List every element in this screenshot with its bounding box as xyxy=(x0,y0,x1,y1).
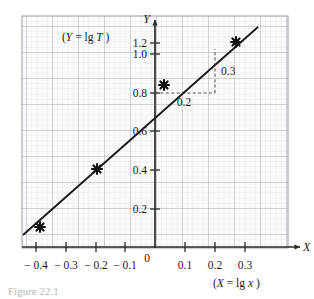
x-tick-label: 0.3 xyxy=(238,259,253,271)
x-tick-label: 0.2 xyxy=(208,259,223,271)
y-tick-label: 1.0 xyxy=(133,48,148,60)
y-tick-label: 0.4 xyxy=(133,164,148,176)
figure-root: 0.2 0.4 0.6 0.8 1.0 1.2 − 0.4 − 0.3 − 0.… xyxy=(0,0,314,299)
figure-caption-strip: Figure 22.1 xyxy=(0,283,314,299)
slope-run-label: 0.2 xyxy=(177,96,192,108)
y-tick-label: 0.2 xyxy=(133,203,148,215)
y-tick-label: 0.8 xyxy=(133,87,148,99)
x-tick-label: − 0.2 xyxy=(84,259,108,271)
figure-caption: Figure 22.1 xyxy=(8,285,59,297)
chart-canvas: 0.2 0.4 0.6 0.8 1.0 1.2 − 0.4 − 0.3 − 0.… xyxy=(0,0,314,299)
origin-label: 0 xyxy=(144,252,150,264)
y-def-close: ) xyxy=(103,31,110,44)
x-tick-label: − 0.4 xyxy=(24,259,48,271)
data-point xyxy=(92,164,102,174)
x-tick-label: − 0.1 xyxy=(113,259,137,271)
x-tick-label: − 0.3 xyxy=(54,259,78,271)
y-tick-label: 1.2 xyxy=(133,37,148,49)
data-point xyxy=(231,37,241,47)
data-point xyxy=(35,222,45,232)
y-tick-label: 0.6 xyxy=(133,125,148,137)
y-definition-label: (Y = lg T ) xyxy=(62,31,110,44)
data-point xyxy=(159,80,169,90)
x-axis-name: X xyxy=(302,240,311,254)
slope-rise-label: 0.3 xyxy=(221,65,236,77)
x-tick-label: 0.1 xyxy=(178,259,193,271)
y-def-equals: = lg xyxy=(72,31,96,44)
x-tick-labels: − 0.4 − 0.3 − 0.2 − 0.1 0.1 0.2 0.3 xyxy=(24,259,252,271)
